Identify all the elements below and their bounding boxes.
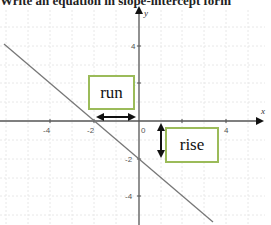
x-axis-label: x xyxy=(260,106,265,116)
y-axis-label: y xyxy=(143,8,148,18)
y-tick-label: 4 xyxy=(131,42,136,51)
run-label: run xyxy=(100,83,123,103)
rise-label-box: rise xyxy=(165,127,219,163)
x-tick-label: -2 xyxy=(87,126,95,135)
x-tick-label: -4 xyxy=(43,126,51,135)
run-label-box: run xyxy=(88,75,135,110)
coordinate-plane: -4 -2 0 2 4 4 2 -2 -4 x y xyxy=(0,0,271,225)
x-tick-label: 0 xyxy=(141,126,146,135)
y-tick-label: -2 xyxy=(125,155,133,164)
x-tick-label: 4 xyxy=(224,126,229,135)
rise-label: rise xyxy=(180,135,205,155)
y-tick-label: -4 xyxy=(125,192,133,201)
